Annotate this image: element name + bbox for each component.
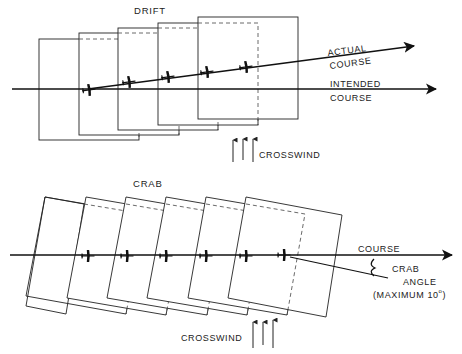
crab-angle-label-2: ANGLE	[403, 277, 437, 287]
crab-section: CRAB	[10, 178, 452, 348]
drift-section: DRIFT ACTUAL	[12, 5, 436, 162]
drift-title: DRIFT	[134, 5, 166, 16]
actual-course-label-1: ACTUAL	[327, 43, 367, 58]
drift-crosswind-arrows	[233, 139, 253, 162]
actual-course-label-2: COURSE	[329, 56, 372, 71]
crab-angle-brace	[371, 259, 375, 276]
crab-title: CRAB	[133, 178, 163, 189]
crab-course-label: COURSE	[358, 244, 400, 254]
crab-angle-label-3: (MAXIMUM 10o)	[373, 288, 446, 300]
crab-crosswind-arrows	[253, 320, 273, 348]
drift-crosswind-label: CROSSWIND	[259, 150, 320, 160]
crab-crosswind-label: CROSSWIND	[181, 333, 242, 343]
crab-angle-label-1: CRAB	[392, 264, 419, 274]
crab-frames	[26, 197, 342, 317]
drift-crab-diagram: DRIFT ACTUAL	[0, 0, 462, 354]
intended-course-label-1: INTENDED	[330, 79, 381, 89]
intended-course-label-2: COURSE	[330, 93, 372, 103]
